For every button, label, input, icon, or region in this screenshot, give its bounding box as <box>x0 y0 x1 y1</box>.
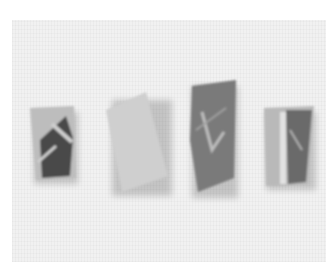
specimen-4 <box>264 106 314 186</box>
specimen-3 <box>190 80 236 192</box>
specimen-1 <box>30 106 76 180</box>
specimens-illustration <box>0 0 332 265</box>
